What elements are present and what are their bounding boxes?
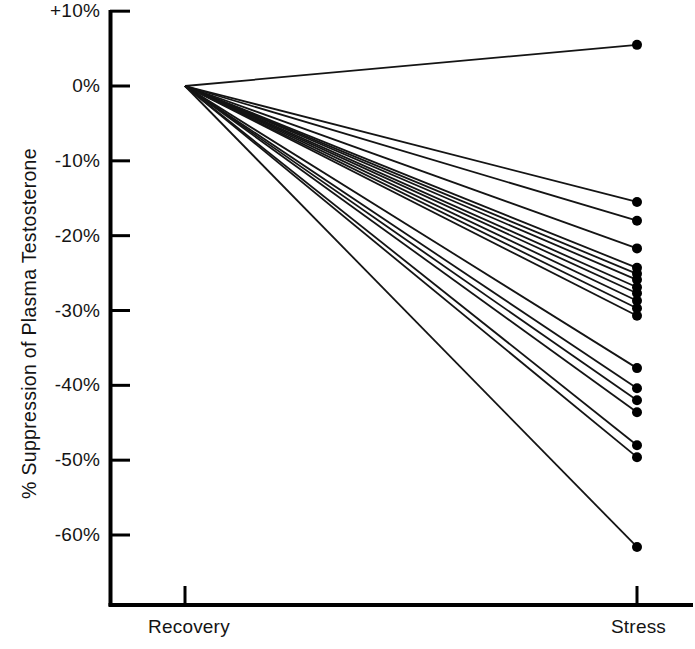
series-line-group bbox=[185, 45, 637, 547]
data-point-marker bbox=[632, 542, 642, 552]
data-point-marker bbox=[632, 197, 642, 207]
y-axis-tick-label: 0% bbox=[72, 76, 100, 95]
data-point-marker bbox=[632, 363, 642, 373]
y-axis-tick-marks bbox=[110, 11, 130, 535]
y-axis-tick-label: -40% bbox=[55, 375, 100, 394]
data-point-marker bbox=[632, 383, 642, 393]
x-axis-tick-label-recovery: Recovery bbox=[148, 617, 230, 636]
y-axis-tick-label: -20% bbox=[55, 226, 100, 245]
series-line bbox=[185, 86, 637, 547]
y-axis-title: % Suppression of Plasma Testosterone bbox=[18, 124, 41, 524]
series-line bbox=[185, 86, 637, 445]
series-line bbox=[185, 86, 637, 248]
y-axis-tick-label: +10% bbox=[50, 1, 100, 20]
data-point-marker bbox=[632, 452, 642, 462]
series-line bbox=[185, 86, 637, 400]
y-axis-tick-label: -30% bbox=[55, 301, 100, 320]
series-line bbox=[185, 86, 637, 308]
series-line bbox=[185, 45, 637, 86]
data-point-marker bbox=[632, 216, 642, 226]
data-point-marker bbox=[632, 243, 642, 253]
series-marker-group bbox=[632, 40, 642, 552]
series-line bbox=[185, 86, 637, 301]
chart-plot-area bbox=[0, 0, 695, 649]
y-axis-tick-label: -50% bbox=[55, 450, 100, 469]
x-axis-tick-marks bbox=[185, 586, 637, 605]
data-point-marker bbox=[632, 40, 642, 50]
data-point-marker bbox=[632, 311, 642, 321]
series-line bbox=[185, 86, 637, 202]
series-line bbox=[185, 86, 637, 388]
chart-axes bbox=[109, 10, 694, 606]
series-line bbox=[185, 86, 637, 293]
y-axis-tick-label: -60% bbox=[55, 525, 100, 544]
testosterone-suppression-chart: +10%0%-10%-20%-30%-40%-50%-60% Recovery … bbox=[0, 0, 695, 649]
series-line bbox=[185, 86, 637, 457]
series-line bbox=[185, 86, 637, 280]
series-line bbox=[185, 86, 637, 412]
x-axis-tick-label-stress: Stress bbox=[611, 617, 666, 636]
data-point-marker bbox=[632, 407, 642, 417]
data-point-marker bbox=[632, 440, 642, 450]
y-axis-tick-label: -10% bbox=[55, 151, 100, 170]
data-point-marker bbox=[632, 395, 642, 405]
series-line bbox=[185, 86, 637, 368]
